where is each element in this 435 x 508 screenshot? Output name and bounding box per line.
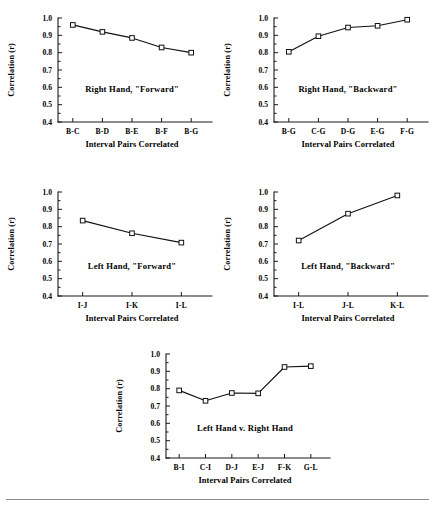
x-tick-label: D-G (341, 127, 356, 136)
data-point-marker (346, 211, 351, 216)
series-line-left-hand-backward (299, 195, 398, 240)
data-point-marker (130, 36, 135, 41)
x-axis-title-left-hand-forward: Interval Pairs Correlated (85, 314, 178, 323)
chart-svg-left-hand-forward: 1.00.90.80.70.60.50.4Correlation (r)I-JI… (0, 178, 218, 342)
y-tick-label: 1.0 (259, 188, 269, 197)
series-line-left-hand-v-right-hand (179, 366, 311, 401)
data-point-marker (287, 50, 292, 55)
chart-panel-left-hand-v-right-hand: 1.00.90.80.70.60.50.4Correlation (r)B-IC… (108, 340, 336, 504)
y-tick-label: 0.5 (43, 274, 53, 283)
y-tick-label: 0.4 (43, 292, 53, 301)
x-tick-label: C-I (200, 463, 212, 472)
chart-svg-right-hand-forward: 1.00.90.80.70.60.50.4Correlation (r)B-CB… (0, 4, 218, 168)
y-tick-label: 1.0 (43, 14, 53, 23)
x-tick-label: B-I (174, 463, 185, 472)
x-tick-label: K-L (390, 301, 404, 310)
x-axis-title-left-hand-backward: Interval Pairs Correlated (301, 314, 394, 323)
data-point-marker (71, 23, 76, 28)
y-tick-label: 0.6 (43, 83, 53, 92)
y-tick-label: 0.8 (259, 48, 269, 57)
y-tick-label: 0.6 (43, 257, 53, 266)
data-point-marker (296, 238, 301, 243)
data-point-marker (203, 399, 208, 404)
panel-annotation-right-hand-forward: Right Hand, "Forward" (85, 84, 179, 94)
y-tick-label: 0.8 (259, 222, 269, 231)
y-tick-label: 0.7 (151, 402, 161, 411)
x-axis-title-left-hand-v-right-hand: Interval Pairs Correlated (198, 476, 291, 485)
panel-annotation-left-hand-backward: Left Hand, "Backward" (301, 261, 395, 271)
y-tick-label: 0.5 (151, 436, 161, 445)
y-tick-label: 1.0 (151, 350, 161, 359)
chart-panel-right-hand-forward: 1.00.90.80.70.60.50.4Correlation (r)B-CB… (0, 4, 218, 168)
y-axis-title-left-hand-forward: Correlation (r) (7, 217, 16, 271)
y-tick-label: 0.8 (43, 222, 53, 231)
y-tick-label: 0.5 (259, 274, 269, 283)
figure-panel-grid: 1.00.90.80.70.60.50.4Correlation (r)B-CB… (0, 0, 435, 508)
data-point-marker (159, 45, 164, 50)
x-tick-label: I-L (293, 301, 304, 310)
data-point-marker (282, 365, 287, 370)
x-axis-title-right-hand-backward: Interval Pairs Correlated (301, 140, 394, 149)
chart-svg-left-hand-backward: 1.00.90.80.70.60.50.4Correlation (r)I-LJ… (216, 178, 434, 342)
x-tick-label: G-L (304, 463, 318, 472)
y-axis-title-left-hand-v-right-hand: Correlation (r) (115, 379, 124, 433)
data-point-marker (130, 231, 135, 236)
x-tick-label: E-G (371, 127, 385, 136)
y-tick-label: 0.4 (43, 118, 53, 127)
data-point-marker (316, 34, 321, 39)
x-tick-label: I-L (176, 301, 187, 310)
data-point-marker (177, 388, 182, 393)
data-point-marker (375, 24, 380, 29)
y-tick-label: 1.0 (259, 14, 269, 23)
chart-svg-right-hand-backward: 1.00.90.80.70.60.50.4Correlation (r)B-GC… (216, 4, 434, 168)
y-axis-title-right-hand-forward: Correlation (r) (7, 43, 16, 97)
x-tick-label: F-K (278, 463, 292, 472)
y-axis-title-left-hand-backward: Correlation (r) (223, 217, 232, 271)
data-point-marker (179, 240, 184, 245)
y-axis-title-right-hand-backward: Correlation (r) (223, 43, 232, 97)
y-tick-label: 0.6 (259, 83, 269, 92)
data-point-marker (346, 25, 351, 30)
data-point-marker (395, 193, 400, 198)
chart-panel-left-hand-backward: 1.00.90.80.70.60.50.4Correlation (r)I-LJ… (216, 178, 434, 342)
x-tick-label: C-G (311, 127, 326, 136)
x-tick-label: B-G (184, 127, 198, 136)
y-tick-label: 0.8 (43, 48, 53, 57)
y-tick-label: 0.9 (259, 205, 269, 214)
data-point-marker (309, 364, 314, 369)
y-tick-label: 0.9 (43, 205, 53, 214)
panel-annotation-left-hand-forward: Left Hand, "Forward" (88, 261, 176, 271)
x-tick-label: B-C (66, 127, 80, 136)
x-tick-label: I-K (126, 301, 138, 310)
x-tick-label: B-E (125, 127, 138, 136)
y-tick-label: 0.4 (259, 118, 269, 127)
series-line-right-hand-backward (289, 20, 407, 52)
data-point-marker (80, 218, 85, 223)
x-tick-label: F-G (400, 127, 414, 136)
y-tick-label: 0.9 (151, 367, 161, 376)
y-tick-label: 0.7 (43, 240, 53, 249)
x-tick-label: I-J (78, 301, 88, 310)
x-tick-label: B-D (96, 127, 110, 136)
chart-panel-left-hand-forward: 1.00.90.80.70.60.50.4Correlation (r)I-JI… (0, 178, 218, 342)
y-tick-label: 0.5 (43, 100, 53, 109)
panel-annotation-right-hand-backward: Right Hand, "Backward" (298, 84, 397, 94)
data-point-marker (256, 391, 261, 396)
y-tick-label: 0.8 (151, 384, 161, 393)
x-tick-label: B-F (155, 127, 168, 136)
chart-panel-right-hand-backward: 1.00.90.80.70.60.50.4Correlation (r)B-GC… (216, 4, 434, 168)
data-point-marker (100, 30, 105, 35)
y-tick-label: 0.9 (259, 31, 269, 40)
footer-divider-rule (6, 499, 429, 500)
panel-annotation-left-hand-v-right-hand: Left Hand v. Right Hand (197, 423, 293, 433)
y-tick-label: 0.7 (259, 66, 269, 75)
chart-svg-left-hand-v-right-hand: 1.00.90.80.70.60.50.4Correlation (r)B-IC… (108, 340, 336, 504)
x-tick-label: D-J (226, 463, 238, 472)
y-tick-label: 0.7 (43, 66, 53, 75)
data-point-marker (230, 391, 235, 396)
y-tick-label: 0.5 (259, 100, 269, 109)
y-tick-label: 0.4 (259, 292, 269, 301)
x-tick-label: E-J (252, 463, 264, 472)
x-axis-title-right-hand-forward: Interval Pairs Correlated (85, 140, 178, 149)
data-point-marker (405, 17, 410, 22)
